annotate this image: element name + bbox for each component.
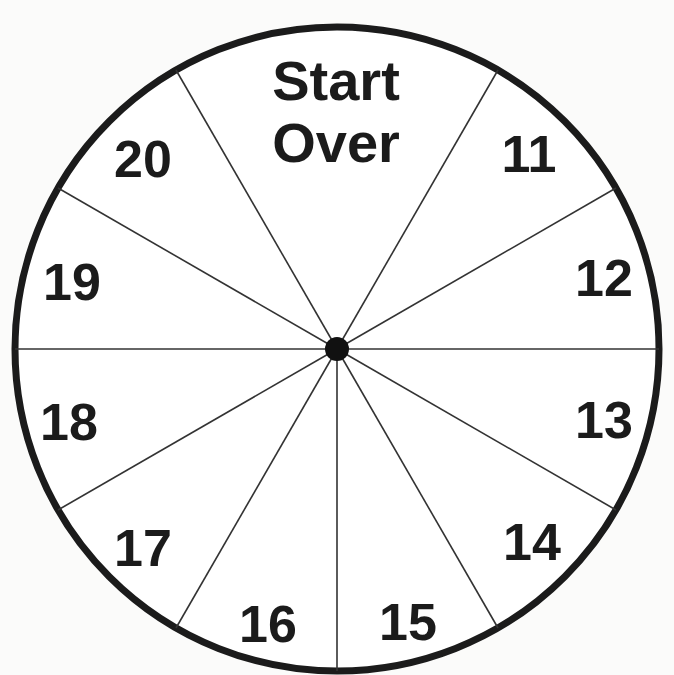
label-13: 13 <box>575 391 633 449</box>
label-15: 15 <box>379 593 437 651</box>
label-12: 12 <box>575 249 633 307</box>
spinner-wheel: Start Over 11 12 13 14 15 16 17 18 19 20 <box>0 0 674 675</box>
label-17: 17 <box>114 519 172 577</box>
label-over: Over <box>272 111 400 174</box>
label-14: 14 <box>503 513 561 571</box>
label-18: 18 <box>40 393 98 451</box>
label-16: 16 <box>239 595 297 653</box>
label-11: 11 <box>502 125 557 183</box>
wheel-hub <box>325 337 349 361</box>
label-start: Start <box>272 49 400 112</box>
label-20: 20 <box>114 130 172 188</box>
label-19: 19 <box>43 253 101 311</box>
